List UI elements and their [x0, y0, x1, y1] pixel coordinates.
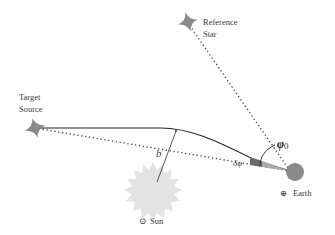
light-deflection-diagram: Reference Star Target Source b δφ φ0 ⊕ E…: [0, 0, 335, 235]
deflection-wedge-light: [262, 161, 290, 171]
phi-symbol: φ: [277, 137, 284, 151]
target-source-label-line2: Source: [19, 104, 43, 114]
sun-icon: [124, 162, 182, 221]
target-source-label-line1: Target: [19, 92, 41, 102]
earth-symbol: ⊕: [280, 188, 287, 198]
reference-star-sightline: [190, 26, 290, 171]
phi-subscript: 0: [284, 141, 289, 151]
reference-star-label-line2: Star: [203, 29, 217, 39]
earth-label: Earth: [293, 188, 312, 198]
sun-symbol: ⊙: [139, 216, 146, 226]
sun-label: Sun: [150, 216, 164, 226]
reference-star-label-line1: Reference: [203, 17, 238, 27]
earth-icon: [286, 163, 304, 181]
impact-parameter-label: b: [156, 147, 162, 159]
deflection-angle-label: δφ: [233, 158, 242, 168]
reference-star-icon: [176, 10, 200, 34]
phi0-label: φ0: [277, 137, 289, 151]
